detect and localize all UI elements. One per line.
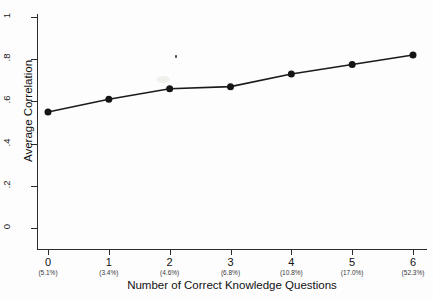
series-markers [45, 51, 417, 115]
chart-figure: 0.2.4.6.81 0(5.1%)1(3.4%)2(4.6%)3(6.8%)4… [0, 0, 433, 299]
series-data-point [227, 83, 234, 90]
series-data-point [166, 85, 173, 92]
scan-speck [175, 55, 177, 58]
series-data-point [105, 96, 112, 103]
series-data-point [410, 51, 417, 58]
series-plot [0, 0, 433, 299]
series-data-point [45, 108, 52, 115]
series-data-point [288, 70, 295, 77]
scan-smudge [156, 76, 170, 83]
series-data-point [349, 61, 356, 68]
